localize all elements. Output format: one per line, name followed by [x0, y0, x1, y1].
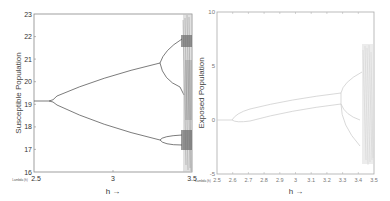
right-plot-area	[217, 12, 374, 174]
right-x-tick: 3.4	[354, 177, 362, 183]
right-y-axis-label: Exposed Population	[197, 57, 206, 128]
left-y-tick: 20	[24, 78, 32, 85]
right-x-tick: 3.2	[323, 177, 331, 183]
right-x-tick: 2.9	[276, 177, 284, 183]
right-chaos-region	[362, 44, 374, 165]
right-x-tick: 2.6	[229, 177, 237, 183]
left-y-tick: 18	[24, 123, 32, 130]
left-y-tick: 21	[24, 56, 32, 63]
right-y-tick: 10	[208, 9, 215, 15]
right-y-ticks: -5 0 5 10	[208, 9, 215, 177]
right-x-tick: 3	[294, 177, 297, 183]
right-x-tick: 3.5	[370, 177, 378, 183]
right-corner-label: Lambda (h)	[195, 179, 210, 183]
right-y-tick: 0	[212, 117, 216, 123]
right-x-tick: 3.1	[307, 177, 315, 183]
left-plot-area	[34, 14, 192, 172]
left-x-tick: 2.5	[31, 175, 41, 182]
left-y-tick: 23	[24, 11, 32, 18]
right-x-tick: 2.5	[213, 177, 221, 183]
left-corner-label: Lambda (h)	[12, 178, 27, 182]
right-y-tick: 5	[212, 63, 216, 69]
right-chart: -5 0 5 10 2.5 2.6 2.7 2.8 2.9 3 3.1 3.2	[195, 9, 378, 196]
right-x-tick: 2.8	[260, 177, 268, 183]
left-y-tick: 19	[24, 101, 32, 108]
left-x-tick: 3	[111, 175, 115, 182]
left-y-axis-label: Susceptible Population	[14, 52, 23, 133]
right-x-tick: 2.7	[245, 177, 253, 183]
left-y-tick: 22	[24, 33, 32, 40]
left-y-ticks: 16 17 18 19 20 21 22 23	[24, 11, 32, 176]
figure: 16 17 18 19 20 21 22 23 2.5 3 3.5 Lambda…	[0, 0, 390, 201]
left-chart: 16 17 18 19 20 21 22 23 2.5 3 3.5 Lambda…	[12, 11, 197, 197]
right-x-ticks: 2.5 2.6 2.7 2.8 2.9 3 3.1 3.2 3.3 3.4 3.…	[213, 177, 378, 183]
right-x-axis-label: h →	[289, 187, 304, 196]
left-x-axis-label: h →	[106, 187, 121, 196]
left-x-ticks: 2.5 3 3.5	[31, 175, 197, 182]
right-x-tick: 3.3	[339, 177, 347, 183]
left-y-tick: 17	[24, 146, 32, 153]
